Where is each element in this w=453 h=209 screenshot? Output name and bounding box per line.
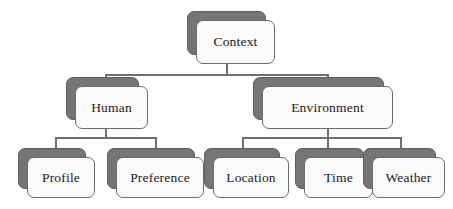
node-profile-label: Profile xyxy=(42,171,80,185)
connector-context-bus xyxy=(105,74,329,76)
node-profile[interactable]: Profile xyxy=(18,148,95,198)
context-hierarchy-diagram: Context Human Environment Profile Prefer… xyxy=(0,0,453,209)
node-human-label: Human xyxy=(91,101,132,115)
node-preference-card: Preference xyxy=(116,157,204,198)
node-context-label: Context xyxy=(213,35,257,49)
node-context-card: Context xyxy=(196,20,275,64)
node-human[interactable]: Human xyxy=(66,77,148,129)
connector-environment-bus xyxy=(242,137,402,139)
connector-human-bus xyxy=(55,137,157,139)
node-environment-card: Environment xyxy=(262,86,393,129)
node-location-label: Location xyxy=(226,171,276,185)
node-environment[interactable]: Environment xyxy=(253,77,393,129)
node-weather[interactable]: Weather xyxy=(363,148,445,198)
node-profile-card: Profile xyxy=(27,157,95,198)
node-time-label: Time xyxy=(324,171,353,185)
node-context[interactable]: Context xyxy=(187,11,275,64)
node-weather-label: Weather xyxy=(385,171,431,185)
node-preference-label: Preference xyxy=(130,171,190,185)
node-time[interactable]: Time xyxy=(295,148,373,198)
node-preference[interactable]: Preference xyxy=(107,148,204,198)
node-weather-card: Weather xyxy=(372,157,445,198)
node-human-card: Human xyxy=(75,86,148,129)
node-location-card: Location xyxy=(213,157,289,198)
node-environment-label: Environment xyxy=(291,101,364,115)
node-location[interactable]: Location xyxy=(204,148,289,198)
